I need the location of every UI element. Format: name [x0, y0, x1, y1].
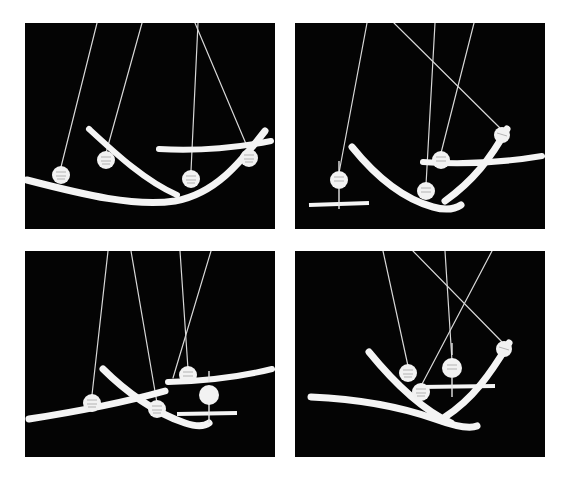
reference-bar-1 — [177, 413, 237, 414]
bob-2 — [148, 400, 166, 418]
bob-4 — [199, 385, 219, 405]
bob-2 — [97, 151, 115, 169]
bob-4 — [494, 127, 510, 143]
panel-canvas-top-right — [295, 23, 545, 229]
panel-canvas-top-left — [25, 23, 275, 229]
panel-canvas-bottom-right — [295, 251, 545, 457]
bob-2 — [412, 383, 430, 401]
reference-bar-1 — [420, 386, 495, 387]
bob-3 — [442, 358, 462, 378]
photo-panel-bottom-right — [295, 251, 545, 457]
bob-1 — [52, 166, 70, 184]
bob-4 — [240, 149, 258, 167]
panel-background — [25, 251, 275, 457]
reference-bar-group — [177, 413, 237, 414]
photo-panel-bottom-left — [25, 251, 275, 457]
bob-3 — [179, 366, 197, 384]
panel-canvas-bottom-left — [25, 251, 275, 457]
bob-2 — [417, 182, 435, 200]
bob-3 — [432, 151, 450, 169]
reference-bar-group — [420, 386, 495, 387]
bob-1 — [83, 394, 101, 412]
bob-1 — [399, 364, 417, 382]
photo-panel-top-left — [25, 23, 275, 229]
figure-root: Four black-background stroboscopic photo… — [0, 0, 567, 489]
bob-1 — [330, 171, 348, 189]
photo-panel-top-right — [295, 23, 545, 229]
bob-3 — [182, 170, 200, 188]
panel-background — [25, 23, 275, 229]
bob-4 — [496, 341, 512, 357]
